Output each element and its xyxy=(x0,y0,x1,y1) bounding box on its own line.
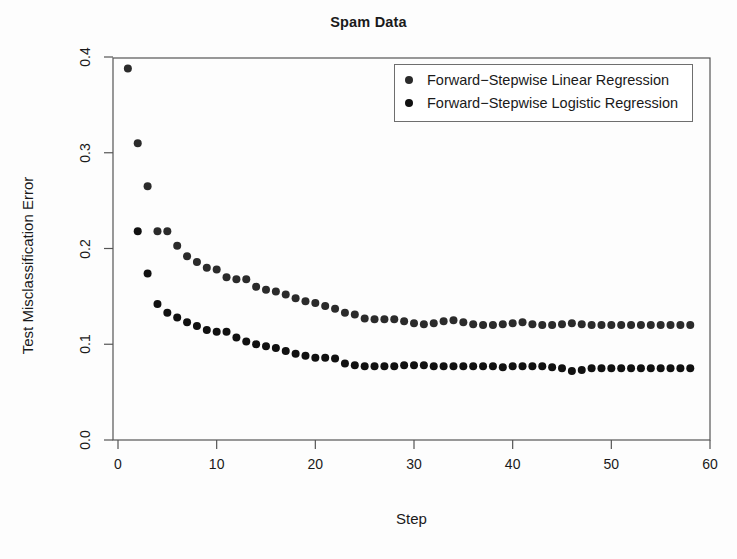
data-point xyxy=(282,347,290,355)
data-point xyxy=(232,334,240,342)
data-point xyxy=(213,328,221,336)
data-point xyxy=(528,362,536,370)
data-point xyxy=(420,361,428,369)
data-point xyxy=(637,364,645,372)
data-point xyxy=(469,362,477,370)
data-point xyxy=(203,326,211,334)
data-point xyxy=(528,320,536,328)
y-axis-label-text: Test Misclassification Error xyxy=(20,176,37,354)
data-point xyxy=(410,319,418,327)
data-point xyxy=(597,364,605,372)
data-point xyxy=(548,363,556,371)
data-point xyxy=(479,362,487,370)
data-point xyxy=(607,321,615,329)
x-tick-label: 60 xyxy=(690,456,730,472)
x-tick-label: 20 xyxy=(295,456,335,472)
data-point xyxy=(686,364,694,372)
data-point xyxy=(509,362,517,370)
y-tick-label: 0.3 xyxy=(75,133,95,173)
data-point xyxy=(430,319,438,327)
data-point xyxy=(607,364,615,372)
y-tick-label: 0.2 xyxy=(75,229,95,269)
data-point xyxy=(272,344,280,352)
data-point xyxy=(173,313,181,321)
data-point xyxy=(489,362,497,370)
data-point xyxy=(627,364,635,372)
data-point xyxy=(153,227,161,235)
x-tick-label: 40 xyxy=(493,456,533,472)
data-point xyxy=(469,320,477,328)
data-point xyxy=(400,361,408,369)
data-point xyxy=(548,321,556,329)
data-point xyxy=(479,321,487,329)
data-point xyxy=(538,362,546,370)
data-point xyxy=(588,364,596,372)
x-axis-label: Step xyxy=(113,510,710,527)
data-point xyxy=(380,362,388,370)
data-point xyxy=(183,318,191,326)
y-tick-label: 0.1 xyxy=(75,324,95,364)
y-tick-label: 0.0 xyxy=(75,420,95,460)
data-point xyxy=(647,364,655,372)
data-point xyxy=(519,318,527,326)
data-point xyxy=(183,252,191,260)
x-tick-label: 50 xyxy=(591,456,631,472)
y-axis-label: Test Misclassification Error xyxy=(14,120,42,410)
data-point xyxy=(449,316,457,324)
data-point xyxy=(134,227,142,235)
legend-marker-icon xyxy=(405,76,413,84)
data-point xyxy=(282,290,290,298)
data-point xyxy=(489,321,497,329)
data-point xyxy=(341,309,349,317)
data-point xyxy=(430,362,438,370)
data-point xyxy=(380,315,388,323)
data-point xyxy=(163,227,171,235)
data-point xyxy=(667,364,675,372)
data-point xyxy=(193,258,201,266)
data-point xyxy=(410,361,418,369)
legend-item: Forward−Stepwise Logistic Regression xyxy=(405,91,678,115)
x-tick-label: 30 xyxy=(394,456,434,472)
data-point xyxy=(519,362,527,370)
data-point xyxy=(223,273,231,281)
data-point xyxy=(223,328,231,336)
legend: Forward−Stepwise Linear RegressionForwar… xyxy=(394,64,693,122)
data-point xyxy=(301,352,309,360)
x-tick-label: 10 xyxy=(197,456,237,472)
data-point xyxy=(321,354,329,362)
data-point xyxy=(420,320,428,328)
data-point xyxy=(676,321,684,329)
data-point xyxy=(163,309,171,317)
data-point xyxy=(292,294,300,302)
data-point xyxy=(292,350,300,358)
data-point xyxy=(252,340,260,348)
data-point xyxy=(509,319,517,327)
legend-item-label: Forward−Stepwise Linear Regression xyxy=(427,72,669,88)
data-point xyxy=(400,317,408,325)
data-point xyxy=(647,321,655,329)
data-point xyxy=(232,275,240,283)
data-point xyxy=(242,337,250,345)
data-point xyxy=(617,364,625,372)
data-point xyxy=(331,355,339,363)
data-point xyxy=(311,354,319,362)
data-point xyxy=(558,364,566,372)
data-point xyxy=(667,321,675,329)
data-point xyxy=(499,363,507,371)
data-point xyxy=(627,321,635,329)
data-point xyxy=(390,362,398,370)
data-point xyxy=(558,320,566,328)
data-point xyxy=(459,362,467,370)
data-point xyxy=(134,139,142,147)
data-point xyxy=(637,321,645,329)
data-point xyxy=(371,315,379,323)
legend-item: Forward−Stepwise Linear Regression xyxy=(405,68,669,92)
series-1-points xyxy=(134,227,695,375)
data-point xyxy=(242,275,250,283)
data-point xyxy=(578,320,586,328)
data-point xyxy=(144,269,152,277)
data-point xyxy=(676,364,684,372)
figure-canvas: Spam Data Test Misclassification Error S… xyxy=(0,0,737,559)
data-point xyxy=(311,299,319,307)
data-point xyxy=(390,315,398,323)
